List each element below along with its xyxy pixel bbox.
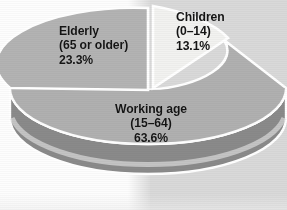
slice-label-elderly: Elderly (65 or older) 23.3% xyxy=(59,24,128,67)
children-label-value: 13.1% xyxy=(176,39,225,53)
elderly-label-line2: (65 or older) xyxy=(59,38,128,52)
elderly-label-line1: Elderly xyxy=(59,24,128,38)
page-bottom-fade xyxy=(0,194,287,210)
working-age-label-value: 63.6% xyxy=(99,131,203,145)
pie-chart-figure: Children (0–14) 13.1% Elderly (65 or old… xyxy=(0,0,287,210)
slice-label-working-age: Working age (15–64) 63.6% xyxy=(99,102,203,145)
slice-label-children: Children (0–14) 13.1% xyxy=(176,10,225,53)
children-label-line1: Children xyxy=(176,10,225,24)
working-age-label-line2: (15–64) xyxy=(99,116,203,130)
elderly-label-value: 23.3% xyxy=(59,53,128,67)
working-age-label-line1: Working age xyxy=(99,102,203,116)
children-label-line2: (0–14) xyxy=(176,24,225,38)
